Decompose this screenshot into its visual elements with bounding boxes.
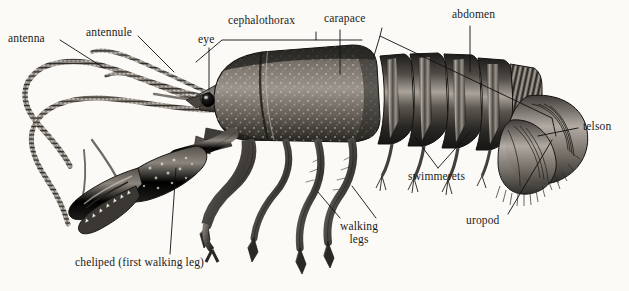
label-uropod: uropod <box>466 214 499 226</box>
crayfish-illustration <box>0 0 629 291</box>
label-telson: telson <box>583 120 611 132</box>
label-swimmerets: swimmerets <box>408 170 465 182</box>
label-walking-legs: walking legs <box>340 220 378 246</box>
abdomen-segment <box>408 53 448 146</box>
label-carapace: carapace <box>324 12 365 24</box>
label-cephalothorax: cephalothorax <box>228 14 295 26</box>
label-abdomen: abdomen <box>452 8 495 20</box>
label-antennule: antennule <box>86 26 132 38</box>
label-antenna: antenna <box>8 32 45 44</box>
label-walking-legs-line2: legs <box>340 233 378 246</box>
label-cheliped: cheliped (first walking leg) <box>75 256 204 268</box>
label-eye: eye <box>198 33 214 45</box>
label-walking-legs-line1: walking <box>340 220 378 233</box>
crayfish-anatomy-figure: antenna antennule eye cephalothorax cara… <box>0 0 629 291</box>
